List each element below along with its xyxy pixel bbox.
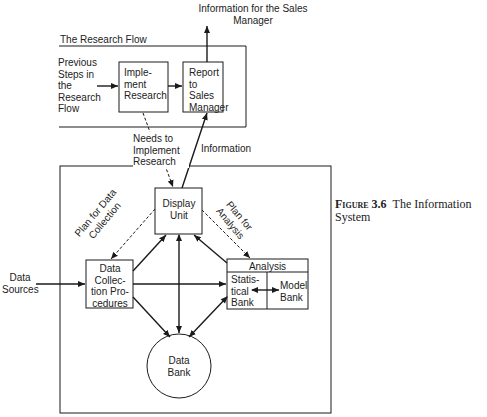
figure-caption: Figure 3.6 The Information System [335,198,487,224]
model-bank: Model Bank [280,280,308,303]
display-unit-box: Display Unit [159,198,199,221]
implement-research-box: Imple- ment Research [124,67,166,102]
report-to-sales-manager-box: Report to Sales Manager [189,67,225,113]
figure-number: Figure 3.6 [335,197,387,211]
needs-label: Needs to Implement Research [133,133,189,168]
statistical-bank: Statis- tical Bank [231,274,261,309]
analysis-header: Analysis [227,261,308,273]
research-flow-title: The Research Flow [60,34,147,46]
data-bank-circle: Data Bank [159,355,199,378]
information-label: Information [201,143,251,155]
data-sources-label: Data Sources [2,272,38,295]
output-label: Information for the Sales Manager [198,3,308,26]
data-collection-box: Data Collec- tion Pro- cedures [88,263,132,309]
previous-steps-label: Previous Steps in the Research Flow [58,57,98,115]
